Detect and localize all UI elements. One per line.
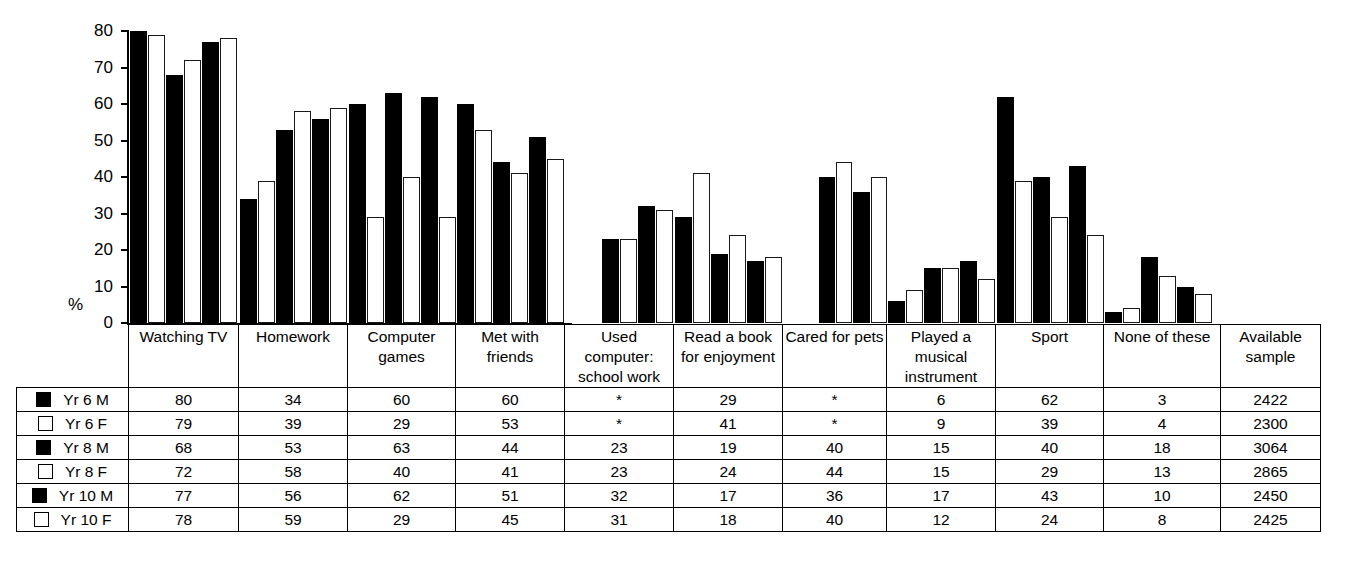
table-cell-value: 40 — [996, 436, 1104, 460]
table-cell-value: 58 — [239, 460, 348, 484]
table-cell-value: 62 — [996, 388, 1104, 412]
bar — [997, 97, 1014, 323]
bar — [1087, 235, 1104, 323]
table-cell-value: 4 — [1104, 412, 1221, 436]
column-header: Watching TV — [129, 325, 239, 388]
legend-series-name: Yr 6 M — [63, 388, 109, 411]
data-table-wrapper: Watching TVHomeworkComputer gamesMet wit… — [16, 324, 1336, 532]
table-cell-value: 44 — [456, 436, 565, 460]
bar — [978, 279, 995, 323]
table-cell-value: 6 — [887, 388, 996, 412]
legend-row-label: Yr 8 F — [17, 460, 129, 484]
y-axis-tick-label: 60 — [73, 95, 113, 112]
bar — [202, 42, 219, 323]
bar — [130, 31, 147, 323]
column-header: Met with friends — [456, 325, 565, 388]
bar — [620, 239, 637, 323]
bar-group — [673, 31, 784, 323]
bar — [729, 235, 746, 323]
bar — [312, 119, 329, 323]
bar — [1123, 308, 1140, 323]
table-cell-value: 3 — [1104, 388, 1221, 412]
table-cell-value: 41 — [674, 412, 783, 436]
bar-group — [995, 31, 1105, 323]
column-header: Read a book for enjoyment — [674, 325, 783, 388]
table-cell-value: 62 — [348, 484, 456, 508]
bar — [638, 206, 655, 323]
table-cell-value: 19 — [674, 436, 783, 460]
bar — [403, 177, 420, 323]
bar — [184, 60, 201, 323]
bar — [475, 130, 492, 323]
bar — [1195, 294, 1212, 323]
bar — [765, 257, 782, 323]
bar-group — [782, 31, 888, 323]
table-cell-value: 51 — [456, 484, 565, 508]
table-cell-value: 23 — [565, 460, 674, 484]
bar — [960, 261, 977, 323]
bar — [1051, 217, 1068, 323]
bar — [276, 130, 293, 323]
table-cell-value: 29 — [348, 508, 456, 532]
column-header: Played a musical instrument — [887, 325, 996, 388]
table-cell-sample: 2450 — [1221, 484, 1321, 508]
y-axis-tick-label: 70 — [73, 59, 113, 76]
bar-group — [347, 31, 457, 323]
bar — [924, 268, 941, 323]
table-cell-value: 36 — [783, 484, 887, 508]
table-cell-value: 9 — [887, 412, 996, 436]
column-header: Cared for pets — [783, 325, 887, 388]
bar — [330, 108, 347, 323]
y-axis-tick-label: 20 — [73, 241, 113, 258]
table-cell-value: 29 — [348, 412, 456, 436]
table-cell-value: 44 — [783, 460, 887, 484]
table-cell-value: 40 — [783, 436, 887, 460]
bar — [871, 177, 887, 323]
bar — [711, 254, 728, 323]
table-cell-value: 12 — [887, 508, 996, 532]
bar — [367, 217, 384, 323]
table-cell-value: 39 — [996, 412, 1104, 436]
column-header: Computer games — [348, 325, 456, 388]
chart-and-table-figure: % 80706050403020100 Watching TVHomeworkC… — [0, 0, 1352, 569]
table-cell-sample: 2422 — [1221, 388, 1321, 412]
table-cell-value: 56 — [239, 484, 348, 508]
table-cell-value: 32 — [565, 484, 674, 508]
table-cell-value: 31 — [565, 508, 674, 532]
table-cell-value: 39 — [239, 412, 348, 436]
table-cell-value: 17 — [674, 484, 783, 508]
legend-series-name: Yr 8 M — [63, 436, 109, 459]
bar — [1141, 257, 1158, 323]
table-cell-sample: 2300 — [1221, 412, 1321, 436]
table-cell-value: 40 — [783, 508, 887, 532]
bar — [457, 104, 474, 323]
bar — [1069, 166, 1086, 323]
legend-series-name: Yr 10 F — [61, 508, 112, 531]
bar — [421, 97, 438, 323]
table-cell-value: 77 — [129, 484, 239, 508]
bar — [853, 192, 869, 323]
column-header-available-sample: Available sample — [1221, 325, 1321, 388]
table-cell-value: 60 — [456, 388, 565, 412]
bar — [258, 181, 275, 323]
column-header: Used computer: school work — [565, 325, 674, 388]
legend-series-name: Yr 8 F — [65, 460, 107, 483]
table-cell-value: 29 — [996, 460, 1104, 484]
table-cell-value: 18 — [674, 508, 783, 532]
table-cell-value: 68 — [129, 436, 239, 460]
y-axis-tick-label: 40 — [73, 168, 113, 185]
y-axis-unit-label: % — [68, 296, 83, 313]
bar-chart: % 80706050403020100 — [0, 0, 1352, 325]
bar — [1159, 276, 1176, 323]
table-cell-value: 17 — [887, 484, 996, 508]
bar — [1033, 177, 1050, 323]
table-cell-value: 15 — [887, 436, 996, 460]
bar — [240, 199, 257, 323]
bar — [602, 239, 619, 323]
table-cell-sample: 3064 — [1221, 436, 1321, 460]
bar — [675, 217, 692, 323]
bar-group — [128, 31, 240, 323]
table-cell-value: 41 — [456, 460, 565, 484]
table-cell-value: 78 — [129, 508, 239, 532]
bar — [493, 162, 510, 323]
